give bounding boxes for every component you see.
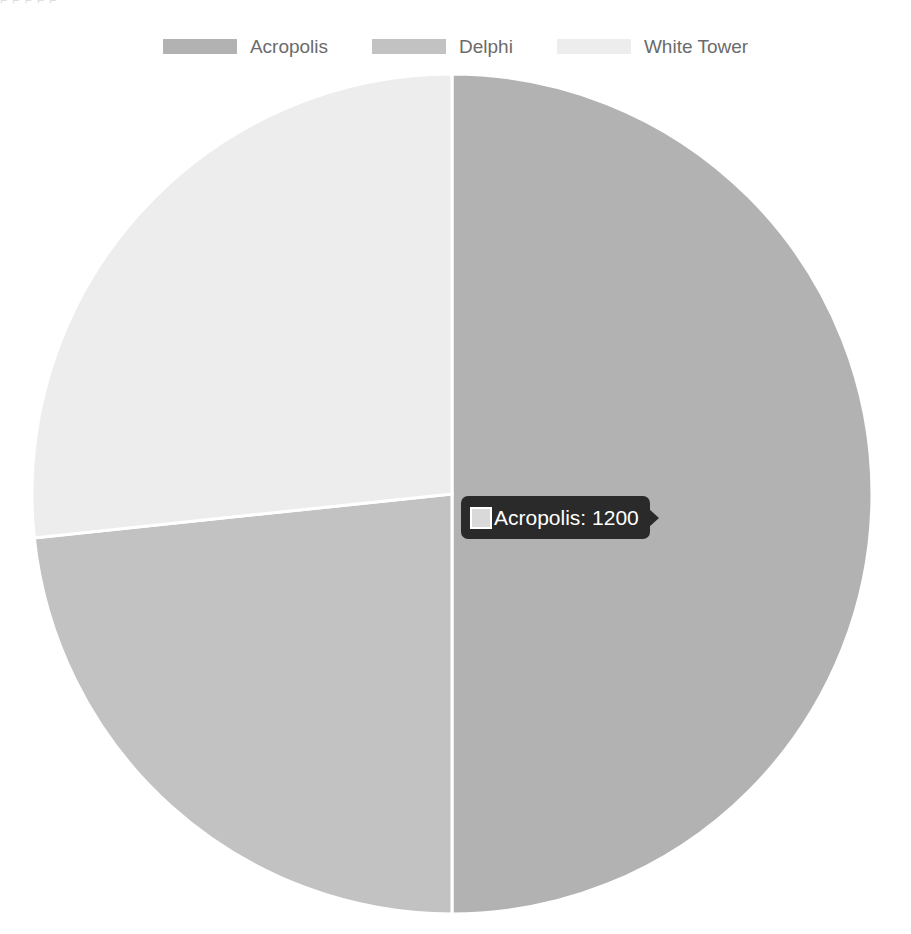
tooltip-series-swatch [470,507,492,529]
legend-swatch-delphi [372,39,446,54]
legend-item-delphi[interactable]: Delphi [372,37,513,56]
pie-chart-svg [0,0,911,934]
legend-swatch-white-tower [557,39,631,54]
pie-slice-delphi[interactable] [34,494,452,914]
pie-slice-acropolis[interactable] [452,74,872,914]
legend-label-white-tower: White Tower [644,37,748,56]
legend-item-acropolis[interactable]: Acropolis [163,37,328,56]
legend-swatch-acropolis [163,39,237,54]
legend-label-acropolis: Acropolis [250,37,328,56]
pie-slices-group [32,74,872,914]
pie-chart-area [0,0,911,934]
chart-legend: Acropolis Delphi White Tower [0,32,911,60]
legend-item-white-tower[interactable]: White Tower [557,37,748,56]
pie-slice-white-tower[interactable] [32,74,452,538]
legend-label-delphi: Delphi [459,37,513,56]
tooltip-label: Acropolis: 1200 [494,507,639,528]
chart-tooltip: Acropolis: 1200 [461,496,650,539]
